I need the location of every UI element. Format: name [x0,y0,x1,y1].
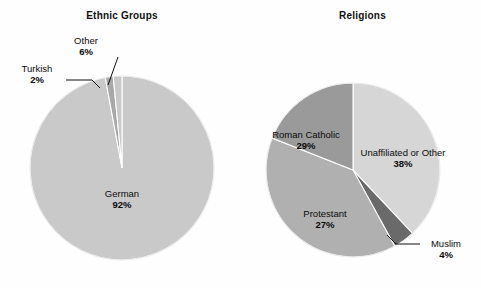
pie-label-protestant: Protestant 27% [288,208,362,230]
pie-label-german-percent: 92% [84,199,160,210]
pie-label-muslim-percent: 4% [420,249,472,260]
pie-label-other-percent: 6% [58,46,114,57]
pie-label-muslim: Muslim 4% [420,238,472,260]
pie-charts-figure: Ethnic Groups Religions German 92% O [0,0,481,288]
pie-label-roman-catholic: Roman Catholic 29% [260,129,352,151]
pie-label-turkish-percent: 2% [10,74,64,85]
pie-label-unaffiliated-percent: 38% [348,158,458,169]
pie-label-protestant-name: Protestant [288,208,362,219]
pie-label-german: German 92% [84,188,160,210]
pie-label-roman-catholic-percent: 29% [260,140,352,151]
pie-label-other-name: Other [58,35,114,46]
pie-label-german-name: German [84,188,160,199]
pie-label-muslim-name: Muslim [420,238,472,249]
pie-label-other: Other 6% [58,35,114,57]
pie-label-turkish: Turkish 2% [10,63,64,85]
pie-label-roman-catholic-name: Roman Catholic [260,129,352,140]
pie-label-unaffiliated-name: Unaffiliated or Other [348,147,458,158]
pie-label-protestant-percent: 27% [288,219,362,230]
pie-chart-religions: Unaffiliated or Other 38% Roman Catholic… [244,0,481,288]
pie-label-turkish-name: Turkish [10,63,64,74]
pie-label-unaffiliated: Unaffiliated or Other 38% [348,147,458,169]
pie-chart-ethnic-groups: German 92% Other 6% Turkish 2% [0,0,244,288]
ethnic-groups-pie-svg [0,0,244,288]
